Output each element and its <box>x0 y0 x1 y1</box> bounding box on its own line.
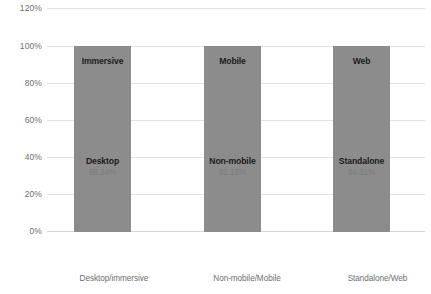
y-axis-tick-label: 120% <box>2 3 42 13</box>
y-axis-tick-label: 20% <box>2 189 42 199</box>
bar-data-label: 92.16% <box>204 167 261 178</box>
bar-segment-label-upper: Immersive <box>74 56 131 66</box>
bar-data-label: 84.31% <box>333 167 390 178</box>
bar-segment-label-upper: Mobile <box>204 56 261 66</box>
bar-segment-label-lower: Standalone <box>333 156 390 167</box>
bar-segment-lower-group: Desktop 88.24% <box>74 156 131 178</box>
plot-area: Immersive Desktop 88.24% Mobile Non-mobi… <box>47 8 425 269</box>
y-axis-tick-label: 80% <box>2 78 42 88</box>
bar-segment-lower-group: Standalone 84.31% <box>333 156 390 178</box>
bar-segment-lower-group: Non-mobile 92.16% <box>204 156 261 178</box>
bar-standalone-web[interactable]: Web Standalone 84.31% <box>333 46 390 232</box>
bar-segment-label-lower: Non-mobile <box>204 156 261 167</box>
x-axis-tick-label: Standalone/Web <box>271 274 431 283</box>
bar-segment-label-upper: Web <box>333 56 390 66</box>
bar-segment-label-lower: Desktop <box>74 156 131 167</box>
bar-nonmobile-mobile[interactable]: Mobile Non-mobile 92.16% <box>204 46 261 232</box>
bar-desktop-immersive[interactable]: Immersive Desktop 88.24% <box>74 46 131 232</box>
y-axis-tick-label: 100% <box>2 41 42 51</box>
bar-data-label: 88.24% <box>74 167 131 178</box>
bar-chart: 120% 100% 80% 60% 40% 20% 0% Immersive D… <box>0 0 431 294</box>
y-axis-tick-label: 40% <box>2 152 42 162</box>
gridline-120 <box>47 8 425 9</box>
y-axis-tick-label: 0% <box>2 226 42 236</box>
y-axis-tick-label: 60% <box>2 115 42 125</box>
